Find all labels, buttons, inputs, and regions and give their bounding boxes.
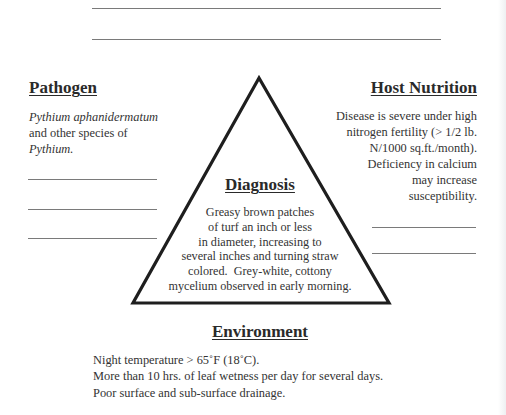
pathogen-description: Pythium aphanidermatum and other species…: [29, 109, 199, 157]
page-edge-shadow: [498, 0, 506, 415]
environment-line: Night temperature > 65˚F (18˚C).: [93, 352, 473, 368]
pathogen-blank-line-1: [28, 179, 157, 180]
pathogen-line: Pythium.: [29, 141, 199, 157]
environment-line: Poor surface and sub-surface drainage.: [93, 385, 473, 401]
pathogen-line: Pythium aphanidermatum: [29, 109, 199, 125]
host-nutrition-line: nitrogen fertility (> 1/2 lb.: [297, 124, 477, 140]
diagnosis-line: of turf an inch or less: [150, 220, 370, 235]
host-nutrition-blank-line-2: [372, 253, 476, 254]
diagnosis-line: Greasy brown patches: [150, 205, 370, 220]
diagnosis-line: colored. Grey-white, cottony: [150, 264, 370, 279]
blank-line-top-1: [92, 8, 441, 9]
host-nutrition-line: Deficiency in calcium: [297, 156, 477, 172]
environment-description: Night temperature > 65˚F (18˚C). More th…: [93, 352, 473, 401]
pathogen-heading: Pathogen: [29, 78, 97, 98]
pathogen-blank-line-3: [28, 238, 157, 239]
host-nutrition-blank-line-1: [372, 227, 476, 228]
blank-line-top-2: [92, 39, 441, 40]
diagnosis-line: several inches and turning straw: [150, 249, 370, 264]
host-nutrition-line: N/1000 sq.ft./month).: [297, 140, 477, 156]
host-nutrition-line: Disease is severe under high: [297, 108, 477, 124]
diagnosis-description: Greasy brown patches of turf an inch or …: [150, 205, 370, 294]
diagnosis-heading: Diagnosis: [190, 175, 330, 195]
pathogen-blank-line-2: [28, 209, 157, 210]
host-nutrition-heading: Host Nutrition: [371, 78, 477, 98]
diagnosis-line: mycelium observed in early morning.: [150, 279, 370, 294]
environment-heading: Environment: [180, 322, 340, 342]
environment-line: More than 10 hrs. of leaf wetness per da…: [93, 368, 473, 384]
pathogen-line: and other species of: [29, 125, 199, 141]
diagnosis-line: in diameter, increasing to: [150, 235, 370, 250]
